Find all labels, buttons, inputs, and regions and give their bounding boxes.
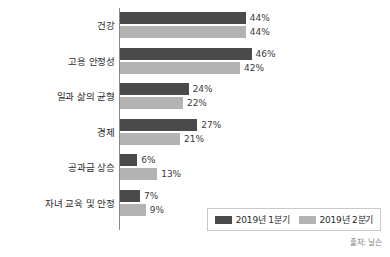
category-label: 자녀 교육 및 안정 (3, 196, 115, 210)
bar-value-label: 27% (197, 120, 221, 130)
bar-series-b[interactable] (120, 26, 246, 38)
bar-group: 일과 삶의 균형24%22% (0, 81, 390, 111)
bar-series-b[interactable] (120, 62, 240, 74)
bar-value-label: 9% (146, 205, 164, 215)
legend-label-series-b: 2019년 2분기 (320, 213, 374, 226)
bar-series-b[interactable] (120, 168, 157, 180)
bar-series-a[interactable] (120, 48, 252, 60)
bar-value-label: 7% (140, 191, 158, 201)
bar-series-a[interactable] (120, 190, 140, 202)
bar-series-a[interactable] (120, 12, 246, 24)
bar-group: 경제27%21% (0, 117, 390, 147)
bar-value-label: 42% (240, 63, 264, 73)
category-label: 공과금 상승 (3, 160, 115, 174)
bar-value-label: 44% (246, 27, 270, 37)
bar-value-label: 46% (252, 49, 276, 59)
category-label: 고용 안정성 (3, 54, 115, 68)
legend-entry-series-b[interactable]: 2019년 2분기 (299, 213, 374, 226)
bar-series-b[interactable] (120, 97, 183, 109)
bar-series-a[interactable] (120, 154, 137, 166)
legend-swatch-icon-series-a (215, 216, 232, 224)
bar-series-a[interactable] (120, 83, 189, 95)
legend-label-series-a: 2019년 1분기 (236, 213, 290, 226)
bar-value-label: 21% (180, 134, 204, 144)
legend-entry-series-a[interactable]: 2019년 1분기 (215, 213, 290, 226)
bar-value-label: 44% (246, 13, 270, 23)
bar-value-label: 22% (183, 98, 207, 108)
legend-swatch-icon-series-b (299, 216, 316, 224)
category-label: 경제 (3, 125, 115, 139)
bar-value-label: 13% (157, 169, 181, 179)
bar-chart: 건강44%44%고용 안정성46%42%일과 삶의 균형24%22%경제27%2… (0, 0, 390, 257)
bar-series-b[interactable] (120, 204, 146, 216)
bar-value-label: 6% (137, 155, 155, 165)
category-label: 일과 삶의 균형 (3, 89, 115, 103)
source-note: 출처: 닐슨 (350, 236, 382, 247)
category-label: 건강 (3, 18, 115, 32)
bar-value-label: 24% (189, 84, 213, 94)
bar-series-b[interactable] (120, 133, 180, 145)
bar-group: 건강44%44% (0, 10, 390, 40)
chart-legend: 2019년 1분기 2019년 2분기 (207, 208, 381, 231)
bar-series-a[interactable] (120, 119, 197, 131)
bar-group: 공과금 상승6%13% (0, 152, 390, 182)
bar-group: 고용 안정성46%42% (0, 46, 390, 76)
